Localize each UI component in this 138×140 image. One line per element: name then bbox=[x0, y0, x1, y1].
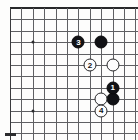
grid-line-vertical bbox=[135, 8, 136, 140]
move-number-label: 3 bbox=[76, 38, 80, 46]
grid-line-vertical bbox=[21, 8, 22, 140]
grid-line-horizontal bbox=[10, 31, 138, 32]
stone-black[interactable] bbox=[106, 93, 119, 106]
stone-black[interactable] bbox=[95, 36, 108, 49]
star-point bbox=[31, 41, 34, 44]
grid-line-vertical bbox=[56, 8, 57, 140]
grid-line-horizontal bbox=[10, 122, 138, 123]
go-board[interactable]: 3214 bbox=[0, 0, 138, 140]
grid-line-vertical bbox=[101, 8, 102, 140]
grid-line-vertical bbox=[113, 8, 114, 140]
grid-line-vertical bbox=[124, 8, 125, 140]
grid-line-horizontal bbox=[10, 54, 138, 55]
grid-line-vertical bbox=[78, 8, 79, 140]
grid-line-horizontal bbox=[10, 133, 138, 134]
go-diagram-figure: 3214 bbox=[0, 0, 138, 140]
move-stone-4[interactable]: 4 bbox=[95, 104, 108, 117]
grid-line-vertical bbox=[90, 8, 91, 140]
grid-line-vertical bbox=[67, 8, 68, 140]
board-edge-top bbox=[10, 7, 138, 9]
move-stone-3[interactable]: 3 bbox=[72, 36, 85, 49]
star-point bbox=[31, 109, 34, 112]
caption-mark bbox=[5, 133, 16, 136]
move-number-label: 1 bbox=[111, 84, 115, 92]
grid-line-horizontal bbox=[10, 19, 138, 20]
move-number-label: 2 bbox=[88, 61, 92, 69]
grid-line-horizontal bbox=[10, 76, 138, 77]
board-edge-left bbox=[10, 8, 11, 140]
move-number-label: 4 bbox=[99, 107, 103, 115]
grid-line-vertical bbox=[33, 8, 34, 140]
grid-line-horizontal bbox=[10, 111, 138, 112]
move-stone-1[interactable]: 1 bbox=[106, 81, 119, 94]
stone-white[interactable] bbox=[106, 59, 119, 72]
grid-line-vertical bbox=[44, 8, 45, 140]
move-stone-2[interactable]: 2 bbox=[83, 59, 96, 72]
